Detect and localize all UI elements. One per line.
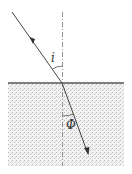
incidence-angle-arc	[53, 66, 63, 69]
refraction-angle-label: Φ	[66, 118, 76, 132]
refraction-diagram	[0, 0, 132, 174]
incident-ray	[12, 12, 62, 83]
incidence-angle-label: i	[51, 51, 55, 65]
